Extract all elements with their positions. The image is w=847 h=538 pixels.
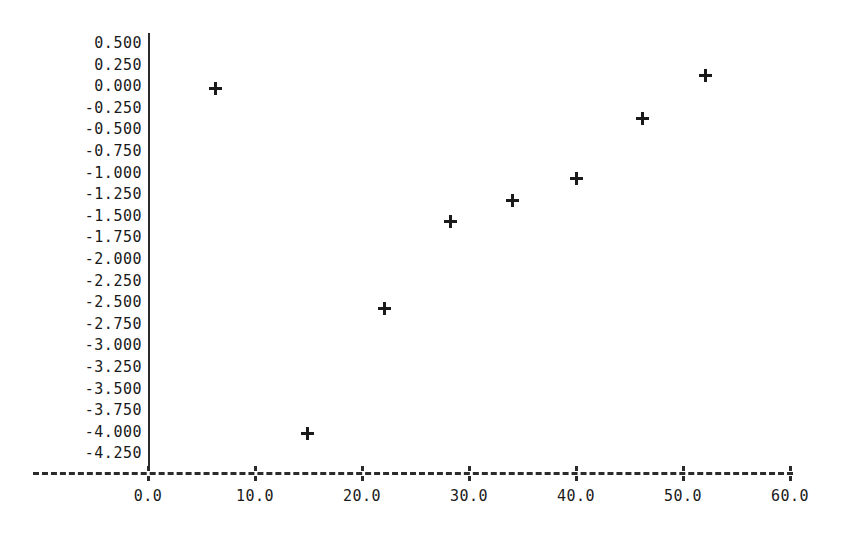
y-axis-tick-label: -1.250 xyxy=(56,184,142,206)
y-axis-tick-label: -1.000 xyxy=(56,163,142,185)
data-point-marker xyxy=(209,82,222,95)
y-axis-tick-label: -3.750 xyxy=(56,400,142,422)
data-point-marker xyxy=(378,302,391,315)
y-axis-tick-label: -4.250 xyxy=(56,443,142,465)
x-axis-tick-label: 40.0 xyxy=(531,487,621,505)
data-point-marker xyxy=(699,69,712,82)
y-axis-tick-label: -2.500 xyxy=(56,292,142,314)
y-axis-tick-label: -0.500 xyxy=(56,119,142,141)
y-axis-tick-label-list: 0.5000.2500.000-0.250-0.500-0.750-1.000-… xyxy=(56,33,142,465)
x-axis-tick-label: 0.0 xyxy=(103,487,193,505)
y-axis-tick-label: 0.000 xyxy=(56,76,142,98)
x-axis-tick-mark xyxy=(468,466,471,481)
y-axis-tick-label: -2.250 xyxy=(56,271,142,293)
data-point-marker xyxy=(636,112,649,125)
data-point-marker xyxy=(506,194,519,207)
x-axis-tick-mark xyxy=(789,466,792,481)
y-axis-tick-label: 0.500 xyxy=(56,33,142,55)
x-axis-tick-mark xyxy=(682,466,685,481)
x-axis-tick-mark xyxy=(254,466,257,481)
x-axis-tick-label: 20.0 xyxy=(317,487,407,505)
y-axis-tick-label: -0.750 xyxy=(56,141,142,163)
x-axis-tick-label: 60.0 xyxy=(745,487,835,505)
y-axis-tick-label: -1.500 xyxy=(56,206,142,228)
data-point-marker xyxy=(570,172,583,185)
scatter-plot-figure: 0.5000.2500.000-0.250-0.500-0.750-1.000-… xyxy=(0,0,847,538)
y-axis-tick-label: -2.750 xyxy=(56,314,142,336)
x-axis-tick-label: 10.0 xyxy=(210,487,300,505)
x-axis-tick-mark xyxy=(147,466,150,481)
y-axis-tick-label: -4.000 xyxy=(56,422,142,444)
x-axis-tick-label: 50.0 xyxy=(638,487,728,505)
x-axis-tick-mark xyxy=(361,466,364,481)
data-point-marker xyxy=(444,215,457,228)
y-axis-tick-label: -3.500 xyxy=(56,379,142,401)
data-point-marker xyxy=(301,427,314,440)
y-axis-tick-label: -3.250 xyxy=(56,357,142,379)
y-axis-tick-label: -2.000 xyxy=(56,249,142,271)
y-axis-line xyxy=(148,33,150,466)
y-axis-tick-label: -1.750 xyxy=(56,227,142,249)
y-axis-tick-label: 0.250 xyxy=(56,55,142,77)
x-axis-tick-label: 30.0 xyxy=(424,487,514,505)
x-axis-tick-mark xyxy=(575,466,578,481)
y-axis-tick-label: -3.000 xyxy=(56,335,142,357)
y-axis-tick-label: -0.250 xyxy=(56,98,142,120)
